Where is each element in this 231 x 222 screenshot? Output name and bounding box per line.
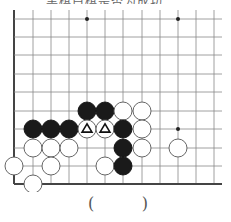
- black-stone[interactable]: [24, 120, 42, 138]
- white-stone[interactable]: [42, 139, 60, 157]
- black-stone[interactable]: [78, 102, 96, 120]
- white-stone[interactable]: [133, 139, 151, 157]
- answer-open-paren: (: [88, 194, 94, 213]
- answer-blank: ( ): [88, 194, 148, 213]
- white-stone[interactable]: [78, 120, 96, 138]
- black-stone[interactable]: [60, 120, 78, 138]
- black-stone[interactable]: [96, 102, 114, 120]
- answer-close-paren: ): [142, 194, 148, 213]
- black-stone[interactable]: [114, 157, 132, 175]
- white-stone[interactable]: [96, 157, 114, 175]
- go-board[interactable]: [0, 0, 231, 192]
- black-stone[interactable]: [114, 139, 132, 157]
- white-stone[interactable]: [114, 102, 132, 120]
- white-stone[interactable]: [24, 175, 42, 192]
- white-stone[interactable]: [169, 139, 187, 157]
- star-point: [176, 17, 180, 21]
- white-stone[interactable]: [5, 157, 23, 175]
- white-stone[interactable]: [24, 139, 42, 157]
- white-stone[interactable]: [60, 139, 78, 157]
- white-stone[interactable]: [96, 120, 114, 138]
- black-stone[interactable]: [114, 120, 132, 138]
- star-point: [176, 127, 180, 131]
- white-stone[interactable]: [42, 157, 60, 175]
- white-stone[interactable]: [133, 102, 151, 120]
- star-point: [85, 17, 89, 21]
- black-stone[interactable]: [42, 120, 60, 138]
- board-grid: [14, 10, 222, 184]
- white-stone[interactable]: [133, 120, 151, 138]
